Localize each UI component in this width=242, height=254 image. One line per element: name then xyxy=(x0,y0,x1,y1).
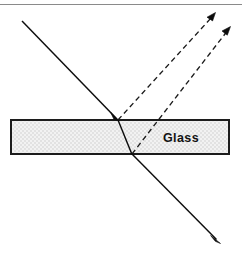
incident-ray-line xyxy=(22,21,117,119)
diagram-canvas: Glass xyxy=(0,0,242,254)
transmitted-ray-line xyxy=(132,154,217,240)
refraction-diagram: Glass xyxy=(0,0,242,254)
incident-ray xyxy=(22,21,119,121)
reflected-ray-top-surface xyxy=(118,13,216,121)
reflected-ray-top-surface-arrowhead xyxy=(207,13,216,21)
reflected-ray-bottom-surface-arrowhead xyxy=(222,27,231,36)
transmitted-ray-arrowhead xyxy=(211,236,221,244)
transmitted-ray xyxy=(132,154,221,244)
glass-label: Glass xyxy=(163,131,199,145)
